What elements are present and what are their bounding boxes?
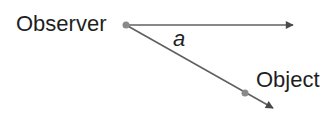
angle-label: a — [173, 28, 185, 50]
observer-point — [123, 22, 130, 29]
object-direction-arrow — [126, 25, 273, 108]
observer-label: Observer — [16, 13, 106, 35]
object-label: Object — [256, 69, 320, 91]
object-point — [242, 90, 249, 97]
